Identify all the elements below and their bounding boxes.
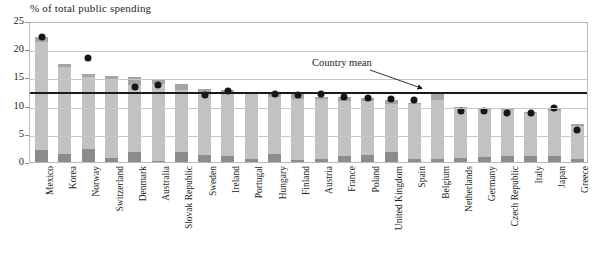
x-axis-category-label: Australia [161, 166, 171, 201]
x-axis-category-label: Japan [557, 166, 567, 188]
bar-segment-lower [524, 156, 537, 162]
data-point-marker[interactable] [341, 94, 348, 101]
bar[interactable] [431, 94, 444, 162]
x-axis-category-label: Sweden [208, 166, 218, 196]
bar-segment-lower [82, 149, 95, 162]
bar-segment-lower [548, 156, 561, 162]
bar-segment-middle [501, 110, 514, 156]
data-point-marker[interactable] [481, 108, 488, 115]
x-axis-category-label: Netherlands [464, 166, 474, 212]
bar-segment-lower [291, 160, 304, 162]
x-axis-category-label: Austria [324, 166, 334, 194]
bar-segment-middle [221, 93, 234, 157]
bar-segment-lower [408, 159, 421, 162]
bar[interactable] [268, 93, 281, 162]
data-point-marker[interactable] [155, 82, 162, 89]
y-axis-tick-label: 20 [2, 43, 24, 54]
x-axis-category-label: Mexico [45, 166, 55, 195]
x-axis-category-label: Spain [417, 166, 427, 188]
bar-segment-lower [431, 159, 444, 162]
y-axis-tick-mark [25, 107, 29, 108]
bar-segment-middle [478, 110, 491, 157]
y-axis-tick-mark [25, 163, 29, 164]
bar-segment-middle [128, 85, 141, 152]
x-axis-category-label: Belgium [441, 166, 451, 199]
bar-segment-lower [338, 156, 351, 162]
data-point-marker[interactable] [574, 127, 581, 134]
bar[interactable] [35, 37, 48, 162]
x-axis-category-label: Ireland [231, 166, 241, 193]
bar-segment-middle [361, 101, 374, 155]
bar[interactable] [454, 107, 467, 162]
gridline [30, 79, 587, 80]
chart-container: % of total public spending 0510152025 Co… [0, 0, 600, 260]
bar[interactable] [198, 89, 211, 162]
bar[interactable] [175, 84, 188, 162]
y-axis-tick-mark [25, 78, 29, 79]
bar-segment-lower [245, 159, 258, 162]
bar-segment-upper [571, 124, 584, 126]
bar-segment-middle [245, 94, 258, 159]
y-axis-tick-label: 5 [2, 128, 24, 139]
y-axis-tick-mark [25, 22, 29, 23]
bar-segment-lower [198, 155, 211, 162]
bar-segment-lower [175, 152, 188, 162]
chart-title: % of total public spending [30, 2, 151, 14]
bar-segment-middle [454, 108, 467, 158]
bar-segment-upper [431, 94, 444, 100]
y-axis-tick-label: 0 [2, 156, 24, 167]
bar-segment-lower [361, 155, 374, 162]
bar[interactable] [105, 76, 118, 162]
bar[interactable] [385, 100, 398, 162]
gridline [30, 136, 587, 137]
x-axis-category-label: Korea [68, 166, 78, 189]
x-axis-category-label: Switzerland [115, 166, 125, 211]
gridline [30, 51, 587, 52]
x-axis-category-label: Portugal [254, 166, 264, 198]
country-mean-line [30, 92, 587, 94]
data-point-marker[interactable] [411, 96, 418, 103]
data-point-marker[interactable] [131, 84, 138, 91]
x-axis-category-labels: MexicoKoreaNorwaySwitzerlandDenmarkAustr… [29, 166, 588, 258]
bar-segment-middle [385, 104, 398, 153]
data-point-marker[interactable] [527, 109, 534, 116]
country-mean-annotation-label: Country mean [312, 57, 372, 68]
plot-area [29, 22, 588, 163]
y-axis-tick-mark [25, 135, 29, 136]
x-axis-category-label: Norway [91, 166, 101, 197]
x-axis-category-label: Italy [534, 166, 544, 183]
bar[interactable] [524, 112, 537, 162]
bar-segment-lower [58, 154, 71, 162]
bar-segment-middle [152, 84, 165, 161]
x-axis-category-label: Czech Republic [510, 166, 520, 226]
x-axis-category-label: Poland [371, 166, 381, 192]
bar-segment-lower [128, 152, 141, 162]
data-point-marker[interactable] [388, 96, 395, 103]
bar[interactable] [291, 93, 304, 162]
y-axis-tick-label: 15 [2, 71, 24, 82]
bar-segment-lower [152, 161, 165, 162]
x-axis-category-label: Slovak Republic [184, 166, 194, 229]
bar-segment-middle [548, 111, 561, 156]
data-point-marker[interactable] [38, 33, 45, 40]
bar[interactable] [221, 90, 234, 162]
y-axis-tick-label: 10 [2, 100, 24, 111]
bar-segment-middle [198, 93, 211, 156]
bar-segment-lower [454, 158, 467, 163]
x-axis-category-label: France [347, 166, 357, 192]
bar-segment-lower [501, 156, 514, 162]
bar-segment-middle [268, 97, 281, 153]
data-point-marker[interactable] [504, 109, 511, 116]
data-point-marker[interactable] [85, 55, 92, 62]
bar[interactable] [408, 103, 421, 162]
bar[interactable] [82, 74, 95, 162]
bar-segment-upper [175, 84, 188, 90]
bar[interactable] [315, 97, 328, 162]
bar-segment-middle [408, 104, 421, 158]
x-axis-category-label: United Kingdom [394, 166, 404, 230]
bar-segment-middle [82, 77, 95, 149]
bar[interactable] [152, 79, 165, 162]
data-point-marker[interactable] [364, 95, 371, 102]
bar-segment-lower [385, 152, 398, 162]
bar[interactable] [245, 92, 258, 162]
